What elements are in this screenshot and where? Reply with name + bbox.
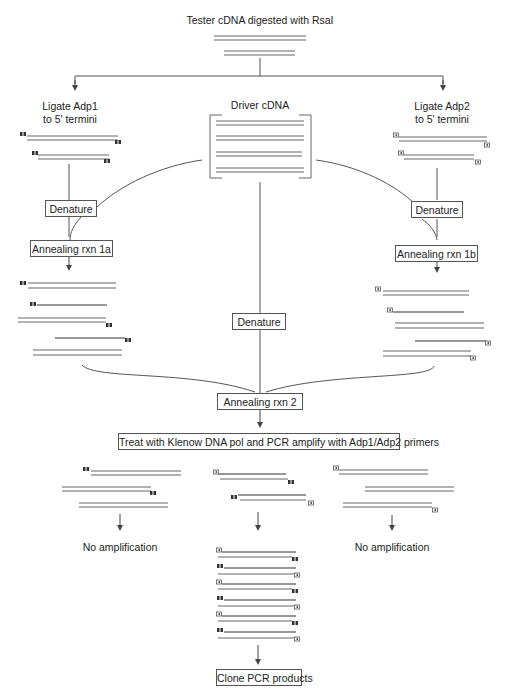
denature-right-box: Denature: [411, 201, 463, 218]
left-branch-line2: to 5' termini: [20, 113, 120, 126]
denature-center-box: Denature: [232, 313, 286, 330]
anneal-1b-box: Annealing rxn 1b: [395, 245, 478, 262]
anneal-2-box: Annealing rxn 2: [217, 393, 303, 410]
right-branch-line1: Ligate Adp2: [392, 100, 492, 113]
left-branch-label: Ligate Adp1 to 5' termini: [20, 100, 120, 126]
anneal-1a-box: Annealing rxn 1a: [30, 240, 113, 257]
right-branch-line2: to 5' termini: [392, 113, 492, 126]
title-label: Tester cDNA digested with RsaI: [160, 14, 360, 27]
left-branch-line1: Ligate Adp1: [20, 100, 120, 113]
left-outcome-label: No amplification: [70, 541, 170, 554]
driver-cdna-label: Driver cDNA: [210, 99, 310, 112]
right-outcome-label: No amplification: [342, 541, 442, 554]
clone-pcr-box: Clone PCR products: [216, 669, 302, 686]
right-branch-label: Ligate Adp2 to 5' termini: [392, 100, 492, 126]
klenow-pcr-box: Treat with Klenow DNA pol and PCR amplif…: [118, 433, 400, 450]
denature-left-box: Denature: [45, 200, 97, 217]
